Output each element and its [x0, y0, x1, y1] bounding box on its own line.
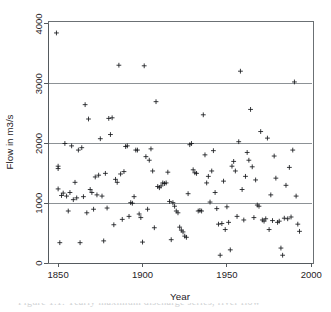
- data-point: [206, 174, 211, 179]
- data-point: [76, 148, 81, 153]
- data-point: [240, 187, 245, 192]
- data-point: [265, 136, 270, 141]
- data-point: [267, 227, 272, 232]
- data-point: [81, 194, 86, 199]
- data-point: [110, 115, 115, 120]
- y-axis-title: Flow in m3/s: [4, 114, 15, 169]
- data-point: [147, 158, 152, 163]
- y-axis-tick-labels: 01000200030004000: [33, 13, 44, 265]
- data-point: [223, 227, 228, 232]
- x-tick-label-1900: 1900: [132, 269, 153, 280]
- data-point: [253, 178, 258, 183]
- data-point: [150, 169, 155, 174]
- figure-caption-strip: Figure 1.1: Yearly maximum discharge ser…: [0, 303, 331, 312]
- x-axis-ticks-group: [58, 263, 311, 267]
- data-point: [149, 146, 154, 151]
- data-point: [132, 194, 137, 199]
- data-point: [252, 215, 257, 220]
- scatter-points-group: [54, 31, 302, 258]
- data-point: [152, 225, 157, 230]
- x-tick-label-2000: 2000: [301, 269, 322, 280]
- data-point: [84, 210, 89, 215]
- data-point: [142, 63, 147, 68]
- data-point: [98, 136, 103, 141]
- data-point: [145, 207, 150, 212]
- data-point: [69, 143, 74, 148]
- data-point: [120, 217, 125, 222]
- plot-area-border: [48, 21, 313, 263]
- y-tick-label-2000: 2000: [33, 133, 44, 154]
- data-point: [54, 31, 59, 36]
- data-point: [218, 253, 223, 258]
- data-point: [297, 229, 302, 234]
- data-point: [105, 206, 110, 211]
- data-point: [250, 164, 255, 169]
- data-point: [203, 152, 208, 157]
- data-point: [169, 237, 174, 242]
- data-point: [165, 170, 170, 175]
- y-tick-label-4000: 4000: [33, 13, 44, 34]
- data-point: [56, 166, 61, 171]
- data-point: [235, 214, 240, 219]
- data-point: [95, 192, 100, 197]
- data-point: [62, 141, 67, 146]
- data-point: [108, 132, 113, 137]
- plot-frame: [48, 21, 313, 263]
- data-point: [111, 222, 116, 227]
- y-tick-label-3000: 3000: [33, 73, 44, 94]
- data-point: [221, 179, 226, 184]
- x-axis-title: Year: [170, 291, 191, 302]
- data-point: [295, 222, 300, 227]
- figure-container: 01000200030004000 1850190019502000 Flow …: [0, 0, 331, 312]
- data-point: [140, 240, 145, 245]
- data-point: [144, 154, 149, 159]
- data-point: [272, 154, 277, 159]
- data-point: [238, 69, 243, 74]
- data-point: [101, 238, 106, 243]
- data-point: [270, 218, 275, 223]
- data-point: [78, 240, 83, 245]
- data-point: [91, 207, 96, 212]
- data-point: [122, 169, 127, 174]
- data-point: [216, 222, 221, 227]
- data-point: [233, 169, 238, 174]
- x-axis-tick-labels: 1850190019502000: [48, 269, 322, 280]
- data-point: [204, 181, 209, 186]
- data-point: [280, 253, 285, 258]
- data-point: [79, 145, 84, 150]
- data-point: [231, 159, 236, 164]
- data-point: [100, 194, 105, 199]
- data-point: [248, 107, 253, 112]
- y-tick-label-0: 0: [33, 260, 44, 265]
- data-point: [118, 172, 123, 177]
- data-point: [66, 209, 71, 214]
- data-point: [241, 218, 246, 223]
- data-point: [290, 148, 295, 153]
- y-axis-ticks-group: [44, 24, 48, 263]
- data-point: [228, 247, 233, 252]
- data-point: [284, 183, 289, 188]
- reference-lines-group: [48, 84, 312, 204]
- flow-vs-year-scatter-chart: 01000200030004000 1850190019502000 Flow …: [0, 0, 331, 312]
- x-tick-label-1950: 1950: [216, 269, 237, 280]
- data-point: [83, 102, 88, 107]
- data-point: [258, 129, 263, 134]
- data-point: [268, 192, 273, 197]
- data-point: [68, 190, 73, 195]
- data-point: [154, 99, 159, 104]
- data-point: [186, 191, 191, 196]
- data-point: [214, 206, 219, 211]
- data-point: [230, 164, 235, 169]
- data-point: [273, 176, 278, 181]
- data-point: [213, 190, 218, 195]
- data-point: [209, 169, 214, 174]
- data-point: [246, 158, 251, 163]
- data-point: [86, 117, 91, 122]
- x-tick-label-1850: 1850: [48, 269, 69, 280]
- data-point: [219, 221, 224, 226]
- data-point: [127, 214, 132, 219]
- y-tick-label-1000: 1000: [33, 193, 44, 214]
- data-point: [201, 112, 206, 117]
- data-point: [282, 216, 287, 221]
- data-point: [64, 194, 69, 199]
